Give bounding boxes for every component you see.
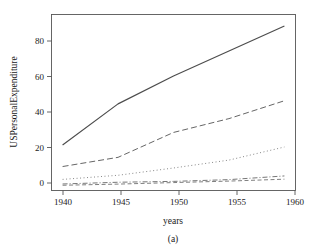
y-tick-label-80: 80 [35, 36, 45, 46]
x-tick-label-1960: 1960 [286, 197, 305, 207]
figure-panel: 0 20 40 60 80 1940 1945 1950 1955 1960 y… [0, 0, 313, 248]
x-tick-label-1950: 1950 [170, 197, 189, 207]
x-axis-title: years [163, 216, 183, 226]
y-tick-label-0: 0 [40, 178, 45, 188]
y-tick-label-40: 40 [35, 107, 45, 117]
x-tick-label-1940: 1940 [54, 197, 73, 207]
y-tick-label-20: 20 [35, 143, 45, 153]
y-tick-label-60: 60 [35, 72, 45, 82]
x-axis-ticks [63, 191, 295, 196]
series-line-5 [63, 179, 285, 185]
line-chart: 0 20 40 60 80 1940 1945 1950 1955 1960 y… [0, 0, 313, 248]
y-axis-ticks [47, 41, 52, 183]
y-axis-title: USPersonalExpenditure [9, 56, 19, 147]
plot-frame [52, 15, 296, 191]
x-tick-label-1945: 1945 [112, 197, 131, 207]
series-line-2 [63, 101, 285, 167]
series-line-3 [63, 147, 285, 179]
x-tick-label-1955: 1955 [228, 197, 247, 207]
series-layer [63, 26, 285, 185]
figure-caption: (a) [168, 234, 179, 245]
series-line-1 [63, 26, 285, 145]
